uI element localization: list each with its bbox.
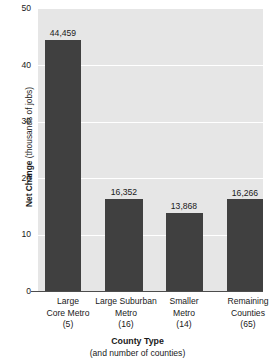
y-tick-label-10: 10	[21, 230, 31, 239]
x-label-remaining-counties: Remaining Counties (65)	[206, 296, 275, 331]
y-tick-label-30: 30	[21, 117, 31, 126]
y-tick-label-20: 20	[21, 174, 31, 183]
x-axis-title-main: County Type	[0, 336, 275, 348]
x-axis-baseline	[31, 291, 263, 292]
bar-chart: Net Change (thousands of jobs) 50 40 30 …	[0, 0, 275, 364]
bar-large-suburban-metro[interactable]	[105, 199, 143, 291]
x-axis-title: County Type (and number of counties)	[0, 336, 275, 359]
x-axis-title-sub: (and number of counties)	[0, 348, 275, 360]
y-tick-label-40: 40	[21, 61, 31, 70]
bar-smaller-metro[interactable]	[166, 213, 203, 291]
bar-value-smaller-metro: 13,868	[156, 202, 212, 211]
y-tick-label-50: 50	[21, 4, 31, 13]
bar-value-large-core-metro: 44,459	[35, 29, 91, 38]
y-tickmark-0	[34, 291, 38, 292]
bar-value-large-suburban-metro: 16,352	[96, 188, 152, 197]
bar-remaining-counties[interactable]	[227, 199, 263, 291]
bar-large-core-metro[interactable]	[45, 40, 81, 291]
bar-value-remaining-counties: 16,266	[217, 189, 273, 198]
plot-area: 44,459 16,352 13,868 16,266	[38, 9, 263, 291]
x-axis-labels: Large Core Metro (5) Large Suburban Metr…	[38, 296, 263, 336]
